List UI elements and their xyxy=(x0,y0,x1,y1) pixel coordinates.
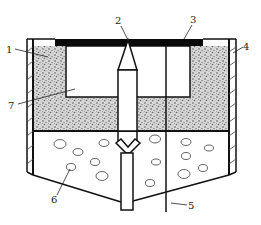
label-5: 5 xyxy=(188,200,194,211)
central-probe xyxy=(116,40,140,210)
label-2: 2 xyxy=(115,15,121,26)
label-7: 7 xyxy=(8,100,14,111)
schematic-diagram: 1 2 3 4 5 6 7 xyxy=(0,0,261,225)
label-1: 1 xyxy=(6,44,12,55)
label-6: 6 xyxy=(51,194,57,205)
label-3: 3 xyxy=(190,14,196,25)
label-4: 4 xyxy=(243,41,249,52)
